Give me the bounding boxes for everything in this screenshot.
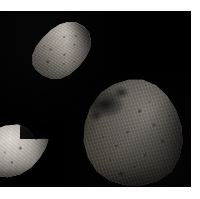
space-image-plate xyxy=(0,11,191,187)
moon-deimos xyxy=(0,119,54,181)
phobos-terminator-shadow xyxy=(77,74,187,187)
moon-phobos xyxy=(77,74,187,187)
image-page xyxy=(0,0,200,199)
deimos-limb-notch-shadow xyxy=(20,117,52,139)
